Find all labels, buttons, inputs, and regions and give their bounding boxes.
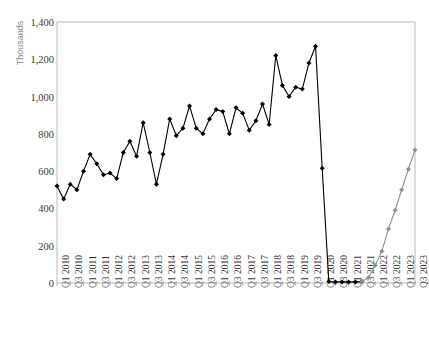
- data-point-marker: [340, 279, 345, 284]
- data-point-marker: [121, 150, 126, 155]
- data-point-marker: [141, 120, 146, 125]
- data-point-marker: [413, 148, 418, 153]
- data-point-marker: [134, 154, 139, 159]
- data-point-marker: [267, 122, 272, 127]
- data-point-marker: [373, 263, 378, 268]
- data-point-marker: [161, 152, 166, 157]
- data-point-marker: [154, 182, 159, 187]
- data-point-marker: [353, 279, 358, 284]
- data-point-marker: [306, 61, 311, 66]
- data-point-marker: [346, 279, 351, 284]
- data-point-marker: [61, 197, 66, 202]
- data-point-marker: [167, 116, 172, 121]
- data-point-marker: [55, 184, 60, 189]
- data-point-marker: [393, 208, 398, 213]
- data-point-marker: [386, 226, 391, 231]
- data-point-marker: [147, 150, 152, 155]
- data-point-marker: [273, 53, 278, 58]
- data-point-marker: [220, 109, 225, 114]
- data-point-marker: [101, 172, 106, 177]
- data-point-marker: [320, 166, 325, 171]
- data-point-marker: [227, 131, 232, 136]
- data-point-marker: [366, 275, 371, 280]
- data-point-marker: [280, 83, 285, 88]
- data-point-marker: [260, 102, 265, 107]
- data-point-marker: [379, 249, 384, 254]
- data-point-marker: [81, 169, 86, 174]
- data-point-marker: [187, 103, 192, 108]
- data-point-marker: [406, 167, 411, 172]
- data-point-marker: [313, 44, 318, 49]
- data-point-marker: [300, 87, 305, 92]
- data-point-marker: [127, 139, 132, 144]
- data-point-marker: [333, 279, 338, 284]
- plot-border: [57, 22, 415, 283]
- series-line-historical: [57, 46, 362, 282]
- data-point-marker: [399, 187, 404, 192]
